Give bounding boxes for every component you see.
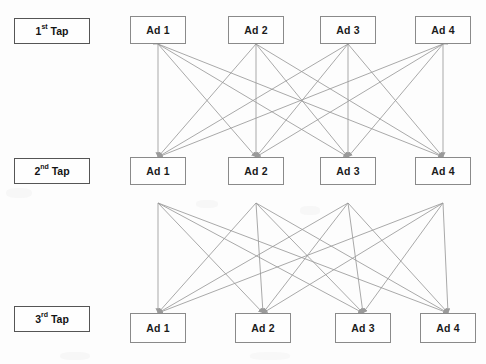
diagram-canvas: 1st Tap 2nd Tap 3rd Tap Ad 1Ad 2Ad 3Ad 4… xyxy=(0,0,486,364)
edge-tier-1-ad3-to-tier-2-ad2 xyxy=(256,44,348,157)
edge-tier-2-ad4-to-tier-3-ad2 xyxy=(263,203,443,313)
node-tier-3-ad-2[interactable]: Ad 2 xyxy=(235,313,291,343)
edge-tier-2-ad4-to-tier-3-ad4 xyxy=(443,203,448,313)
edge-tier-2-ad2-to-tier-3-ad2 xyxy=(256,203,263,313)
node-label: Ad 4 xyxy=(431,24,455,36)
edge-tier-1-ad3-to-tier-2-ad1 xyxy=(158,44,348,157)
node-tier-1-ad-4[interactable]: Ad 4 xyxy=(415,16,471,44)
edge-tier-1-ad4-to-tier-2-ad3 xyxy=(348,44,443,157)
node-tier-2-ad-2[interactable]: Ad 2 xyxy=(228,157,284,185)
node-label: Ad 3 xyxy=(351,322,375,334)
node-tier-2-ad-1[interactable]: Ad 1 xyxy=(130,157,186,185)
node-tier-3-ad-3[interactable]: Ad 3 xyxy=(335,313,391,343)
paper-speckle xyxy=(300,206,320,215)
edge-tier-1-ad1-to-tier-2-ad3 xyxy=(158,44,348,157)
edge-tier-2-ad2-to-tier-3-ad1 xyxy=(158,203,256,313)
edge-tier-2-ad3-to-tier-3-ad3 xyxy=(348,203,363,313)
edge-tier-1-ad2-to-tier-2-ad3 xyxy=(256,44,348,157)
edge-tier-1-ad3-to-tier-2-ad4 xyxy=(348,44,443,157)
node-tier-3-ad-1[interactable]: Ad 1 xyxy=(130,313,186,343)
ordinal-suffix: nd xyxy=(40,163,49,170)
tap-label-3rd: 3rd Tap xyxy=(14,306,90,332)
tap-label-2nd-text: 2nd Tap xyxy=(34,165,69,177)
ordinal-suffix: st xyxy=(41,23,47,30)
tap-label-1st-text: 1st Tap xyxy=(36,25,69,37)
node-tier-1-ad-1[interactable]: Ad 1 xyxy=(130,16,186,44)
node-label: Ad 4 xyxy=(431,165,455,177)
node-label: Ad 1 xyxy=(146,322,170,334)
edge-tier-1-ad4-to-tier-2-ad1 xyxy=(158,44,443,157)
edge-tier-2-ad4-to-tier-3-ad1 xyxy=(158,203,443,313)
node-label: Ad 2 xyxy=(244,24,268,36)
node-tier-2-ad-4[interactable]: Ad 4 xyxy=(415,157,471,185)
ordinal-suffix: rd xyxy=(41,311,48,318)
paper-speckle xyxy=(250,352,290,360)
edge-tier-2-ad4-to-tier-3-ad3 xyxy=(363,203,443,313)
edge-tier-2-ad2-to-tier-3-ad4 xyxy=(256,203,448,313)
edge-tier-2-ad1-to-tier-3-ad3 xyxy=(158,203,363,313)
node-tier-1-ad-2[interactable]: Ad 2 xyxy=(228,16,284,44)
node-label: Ad 1 xyxy=(146,165,170,177)
node-label: Ad 2 xyxy=(244,165,268,177)
edge-tier-1-ad1-to-tier-2-ad4 xyxy=(158,44,443,157)
edge-tier-2-ad1-to-tier-3-ad2 xyxy=(158,203,263,313)
edge-tier-1-ad2-to-tier-2-ad4 xyxy=(256,44,443,157)
node-label: Ad 3 xyxy=(336,165,360,177)
edge-tier-2-ad3-to-tier-3-ad2 xyxy=(263,203,348,313)
edge-tier-1-ad2-to-tier-2-ad1 xyxy=(158,44,256,157)
node-label: Ad 3 xyxy=(336,24,360,36)
edge-tier-1-ad4-to-tier-2-ad2 xyxy=(256,44,443,157)
node-label: Ad 4 xyxy=(436,322,460,334)
edge-tier-2-ad3-to-tier-3-ad4 xyxy=(348,203,448,313)
paper-speckle xyxy=(6,188,32,198)
paper-speckle xyxy=(196,200,218,208)
tap-label-3rd-text: 3rd Tap xyxy=(35,313,69,325)
tap-label-2nd: 2nd Tap xyxy=(14,158,90,184)
node-label: Ad 2 xyxy=(251,322,275,334)
node-tier-3-ad-4[interactable]: Ad 4 xyxy=(420,313,476,343)
node-label: Ad 1 xyxy=(146,24,170,36)
tap-label-1st: 1st Tap xyxy=(14,18,90,44)
edge-tier-2-ad3-to-tier-3-ad1 xyxy=(158,203,348,313)
edge-tier-1-ad1-to-tier-2-ad2 xyxy=(158,44,256,157)
edge-tier-2-ad1-to-tier-3-ad4 xyxy=(158,203,448,313)
edge-tier-2-ad2-to-tier-3-ad3 xyxy=(256,203,363,313)
paper-speckle xyxy=(60,352,90,360)
node-tier-2-ad-3[interactable]: Ad 3 xyxy=(320,157,376,185)
node-tier-1-ad-3[interactable]: Ad 3 xyxy=(320,16,376,44)
